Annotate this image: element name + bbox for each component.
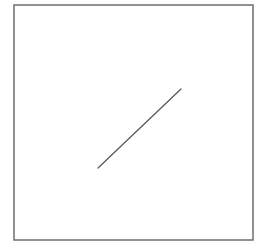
frame-border — [14, 5, 253, 240]
diagram-svg — [0, 0, 266, 250]
diagonal-line — [98, 89, 181, 168]
diagram-canvas — [0, 0, 266, 250]
